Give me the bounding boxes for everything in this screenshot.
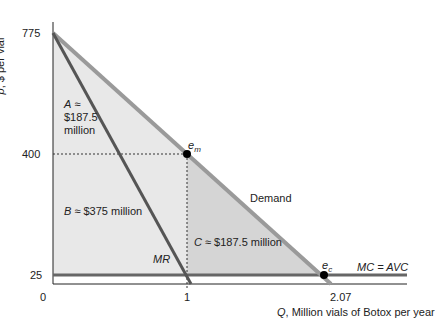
mc-label: MC = AVC — [357, 261, 408, 274]
x-tick-207: 2.07 — [330, 291, 351, 304]
mr-label: MR — [153, 253, 170, 266]
area-C-label: C ≈ $187.5 million — [194, 236, 282, 249]
y-tick-25: 25 — [30, 269, 42, 282]
x-axis-label: Q, Million vials of Botox per year — [277, 306, 435, 319]
y-tick-400: 400 — [22, 148, 40, 161]
em-label: em — [188, 139, 201, 156]
ec-label: ec — [322, 259, 332, 276]
x-tick-0: 0 — [40, 291, 46, 304]
area-A-label: A ≈$187.5million — [64, 98, 98, 137]
area-B-label: B ≈ $375 million — [64, 205, 142, 218]
y-tick-775: 775 — [22, 27, 40, 40]
demand-label: Demand — [250, 192, 292, 205]
x-tick-1: 1 — [184, 291, 190, 304]
y-axis-label: p, $ per vial — [0, 38, 6, 95]
